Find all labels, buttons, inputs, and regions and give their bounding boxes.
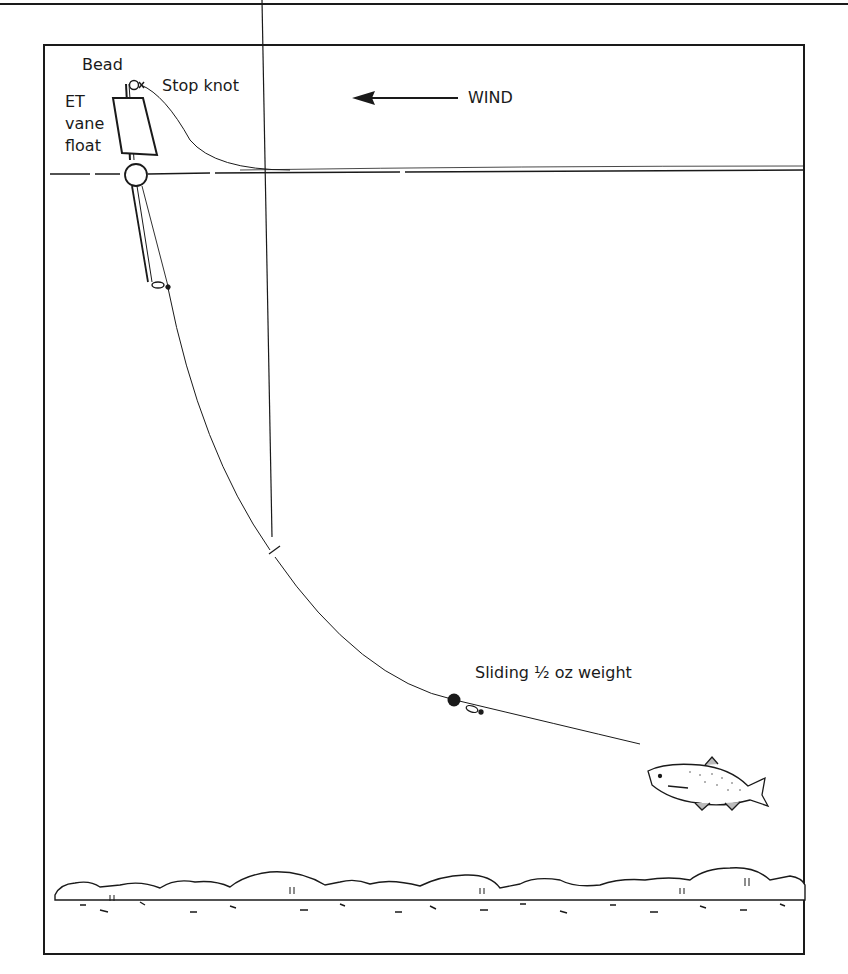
wind-arrow-icon bbox=[352, 91, 458, 105]
rig-illustration bbox=[0, 0, 848, 974]
lake-bed-stones bbox=[55, 868, 805, 913]
stop-knot-icon bbox=[139, 82, 144, 88]
main-line bbox=[168, 288, 270, 550]
stop-knot-label: Stop knot bbox=[162, 76, 239, 96]
et-vane-float-icon bbox=[113, 84, 170, 290]
bead-label: Bead bbox=[82, 55, 123, 75]
water-surface bbox=[50, 166, 805, 174]
float-label-line1: ET bbox=[65, 92, 85, 112]
float-label-line3: float bbox=[65, 136, 101, 156]
float-label-line2: vane bbox=[65, 114, 104, 134]
bait-fish-icon bbox=[648, 757, 768, 810]
sliding-weight-icon bbox=[448, 694, 461, 707]
line-to-surface bbox=[141, 85, 290, 170]
line-break-mark bbox=[262, 0, 280, 554]
bead-icon bbox=[130, 81, 139, 90]
weight-label: Sliding ½ oz weight bbox=[475, 663, 632, 683]
wind-label: WIND bbox=[468, 88, 513, 108]
